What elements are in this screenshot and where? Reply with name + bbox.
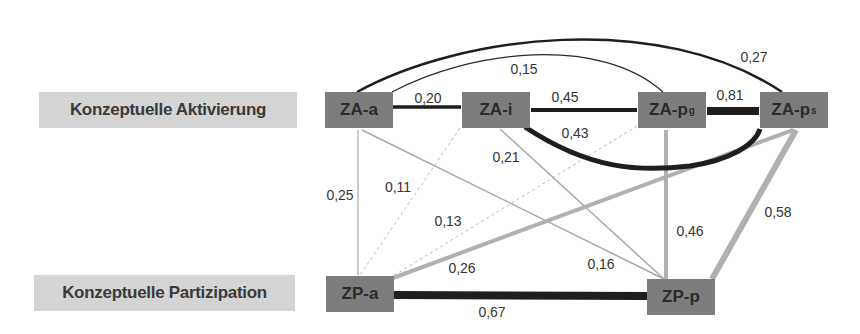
node-zp-a-label: ZP-a	[342, 284, 379, 304]
node-za-i: ZA-i	[462, 92, 530, 128]
edge-label-za_a-zp_p: 0,16	[587, 256, 614, 272]
edge-za_a-za_ps	[357, 39, 782, 92]
edge-label-za_i-zp_p: 0,21	[492, 149, 519, 165]
node-za-pg-subscript: g	[689, 105, 695, 116]
correlation-diagram: Konzeptuelle Aktivierung Konzeptuelle Pa…	[0, 0, 860, 334]
edge-za_i-zp_a	[360, 128, 460, 275]
edge-zp_a-zp_p	[394, 295, 647, 296]
edge-label-za_pg-za_ps: 0,81	[716, 87, 743, 103]
row-label-participation: Konzeptuelle Partizipation	[34, 275, 295, 311]
node-za-pg: ZA-pg	[638, 92, 706, 128]
edge-label-za_i-za_pg: 0,45	[551, 89, 578, 105]
edge-label-zp_a-zp_p: 0,67	[478, 304, 505, 320]
node-za-i-label: ZA-i	[479, 100, 512, 120]
edge-label-za_ps-zp_a: 0,26	[448, 260, 475, 276]
row-label-activation: Konzeptuelle Aktivierung	[39, 92, 297, 128]
node-za-a: ZA-a	[325, 92, 393, 128]
edge-label-za_i-zp_a: 0,11	[385, 179, 411, 195]
edge-label-za_a-za_ps: 0,27	[740, 49, 767, 65]
node-za-ps-subscript: s	[811, 105, 817, 116]
edge-za_i-za_ps	[525, 127, 760, 168]
edge-label-za_i-za_ps: 0,43	[561, 125, 588, 141]
edge-label-za_pg-zp_p: 0,46	[676, 223, 703, 239]
node-za-ps: ZA-ps	[760, 92, 828, 128]
edge-label-za_pg-zp_a: 0,13	[434, 213, 461, 229]
node-za-a-label: ZA-a	[340, 100, 378, 120]
edge-label-za_a-za_i: 0,20	[414, 90, 441, 106]
node-zp-a: ZP-a	[326, 276, 394, 312]
node-za-ps-label: ZA-p	[771, 100, 810, 120]
node-zp-p-label: ZP-p	[662, 287, 700, 307]
edge-label-za_ps-zp_p: 0,58	[764, 204, 791, 220]
edge-label-za_a-zp_a: 0,25	[326, 187, 353, 203]
edge-label-za_a-za_pg: 0,15	[510, 61, 537, 77]
edge-za_i-zp_p	[500, 129, 664, 279]
node-za-pg-label: ZA-p	[649, 100, 688, 120]
node-zp-p: ZP-p	[647, 279, 715, 315]
